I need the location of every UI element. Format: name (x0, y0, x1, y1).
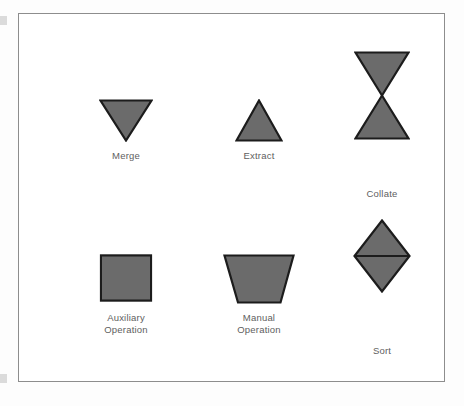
symbol-shape-slot (322, 217, 442, 339)
figure-canvas: Merge Extract (0, 0, 464, 406)
symbol-shape-slot (322, 48, 442, 182)
symbol-grid: Merge Extract (19, 14, 444, 381)
symbol-cell-sort: Sort (322, 217, 442, 357)
triangle-shape (235, 99, 283, 142)
figure-frame: Merge Extract (18, 13, 445, 382)
inverted-trapezoid-shape (223, 254, 295, 304)
symbol-cell-merge: Merge (66, 86, 186, 162)
symbol-shape-slot (66, 86, 186, 144)
symbol-label-auxiliary-operation: Auxiliary Operation (66, 312, 186, 336)
symbol-label-collate: Collate (322, 188, 442, 200)
symbol-cell-collate: Collate (322, 48, 442, 200)
symbol-shape-slot (199, 86, 319, 144)
symbol-label-merge: Merge (66, 150, 186, 162)
symbol-shape-slot (199, 244, 319, 306)
symbol-label-sort: Sort (322, 345, 442, 357)
hourglass-bowtie-shape (354, 51, 410, 140)
symbol-shape-slot (66, 244, 186, 306)
square-shape (100, 254, 153, 302)
symbol-cell-manual-operation: Manual Operation (199, 244, 319, 336)
symbol-cell-auxiliary-operation: Auxiliary Operation (66, 244, 186, 336)
symbol-label-manual-operation: Manual Operation (199, 312, 319, 336)
symbol-label-extract: Extract (199, 150, 319, 162)
symbol-cell-extract: Extract (199, 86, 319, 162)
diamond-with-horizontal-bar-shape (353, 219, 411, 293)
inverted-triangle-shape (99, 99, 153, 142)
scan-artifact-bottom (0, 374, 7, 383)
scan-artifact-top (0, 16, 7, 25)
